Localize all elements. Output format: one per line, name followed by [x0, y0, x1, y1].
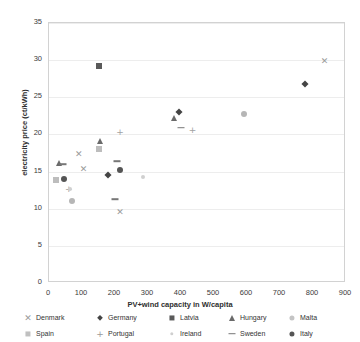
- data-point: [68, 187, 72, 191]
- legend-label: Malta: [300, 314, 317, 321]
- data-point: [117, 167, 123, 173]
- legend-marker-icon: [228, 313, 236, 322]
- x-tick-label: 300: [132, 289, 162, 297]
- legend-item-germany[interactable]: Germany: [96, 310, 137, 325]
- y-tick-label: 35: [18, 18, 42, 26]
- data-point: +: [116, 128, 124, 137]
- x-tick-label: 700: [264, 289, 294, 297]
- data-point: [97, 138, 103, 144]
- legend-marker-icon: [288, 313, 296, 322]
- legend-label: Latvia: [180, 314, 199, 321]
- data-point: [96, 63, 102, 69]
- legend-item-italy[interactable]: Italy: [288, 326, 313, 341]
- legend-label: Spain: [36, 330, 54, 337]
- data-point: +: [189, 125, 197, 134]
- data-point: [178, 127, 185, 129]
- gridline: [49, 172, 344, 173]
- scatter-chart-figure: ✕✕✕✕+++ 05101520253035 01002003004005006…: [0, 0, 360, 342]
- x-tick-label: 400: [165, 289, 195, 297]
- x-tick-label: 100: [66, 289, 96, 297]
- legend-marker-icon: [168, 313, 176, 322]
- legend-row: Spain+PortugalIrelandSwedenItaly: [24, 326, 342, 341]
- legend-item-spain[interactable]: Spain: [24, 326, 54, 341]
- legend-item-latvia[interactable]: Latvia: [168, 310, 199, 325]
- x-tick-label: 500: [198, 289, 228, 297]
- y-tick-label: 0: [18, 278, 42, 286]
- legend-item-hungary[interactable]: Hungary: [228, 310, 266, 325]
- gridline: [49, 134, 344, 135]
- data-point: [241, 111, 247, 117]
- x-tick-label: 0: [33, 289, 63, 297]
- data-point: [61, 176, 67, 182]
- legend-item-ireland[interactable]: Ireland: [168, 326, 201, 341]
- data-point: [69, 198, 75, 204]
- legend-label: Italy: [300, 330, 313, 337]
- legend-label: Denmark: [36, 314, 64, 321]
- legend-item-malta[interactable]: Malta: [288, 310, 317, 325]
- x-tick-label: 900: [330, 289, 360, 297]
- data-point: ✕: [75, 149, 83, 158]
- gridline: [49, 23, 344, 24]
- legend-marker-icon: [228, 329, 236, 338]
- legend: ✕DenmarkGermanyLatviaHungaryMaltaSpain+P…: [24, 310, 342, 340]
- data-point: [301, 80, 308, 87]
- legend-item-sweden[interactable]: Sweden: [228, 326, 265, 341]
- data-point: [59, 163, 66, 165]
- legend-row: ✕DenmarkGermanyLatviaHungaryMalta: [24, 310, 342, 325]
- data-point: [141, 175, 145, 179]
- x-axis-title: PV+wind capacity in W/capita: [0, 300, 360, 309]
- legend-item-portugal[interactable]: +Portugal: [96, 326, 134, 341]
- data-point: ✕: [321, 56, 329, 65]
- gridline: [49, 97, 344, 98]
- y-axis-title: electricity price (ct/kWh): [20, 43, 29, 223]
- data-point: ✕: [80, 164, 88, 173]
- x-tick-label: 600: [231, 289, 261, 297]
- x-tick-label: 200: [99, 289, 129, 297]
- data-point: ✕: [116, 207, 124, 216]
- legend-label: Portugal: [108, 330, 134, 337]
- legend-marker-icon: [168, 329, 176, 338]
- legend-marker-icon: +: [96, 329, 104, 338]
- data-point: [113, 160, 120, 162]
- legend-label: Sweden: [240, 330, 265, 337]
- legend-item-denmark[interactable]: ✕Denmark: [24, 310, 64, 325]
- y-tick-label: 5: [18, 241, 42, 249]
- legend-marker-icon: [96, 313, 104, 322]
- legend-marker-icon: [24, 329, 32, 338]
- data-point: [96, 146, 102, 152]
- plot-area: ✕✕✕✕+++: [48, 22, 345, 282]
- legend-label: Germany: [108, 314, 137, 321]
- legend-marker-icon: ✕: [24, 313, 32, 322]
- legend-marker-icon: [288, 329, 296, 338]
- data-point: [112, 198, 119, 200]
- legend-label: Ireland: [180, 330, 201, 337]
- legend-label: Hungary: [240, 314, 266, 321]
- gridline: [49, 209, 344, 210]
- data-point: [53, 177, 59, 183]
- data-point: [171, 115, 177, 121]
- gridline: [49, 246, 344, 247]
- x-tick-label: 800: [297, 289, 327, 297]
- gridline: [49, 60, 344, 61]
